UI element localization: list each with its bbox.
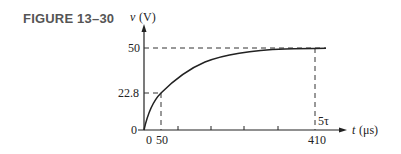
y-axis-unit: (V) <box>139 10 156 24</box>
x-axis-arrow-icon <box>339 128 347 133</box>
five-tau-label: 5τ <box>318 114 329 128</box>
y-tick-0: 0 <box>131 123 137 137</box>
x-tick-410: 410 <box>308 133 326 147</box>
charging-curve <box>144 48 326 130</box>
y-axis-arrow-icon <box>142 24 147 32</box>
y-tick-50: 50 <box>128 41 140 55</box>
y-tick-22.8: 22.8 <box>118 86 139 100</box>
guide-lines <box>144 48 326 130</box>
x-axis-unit: (μs) <box>359 123 378 137</box>
x-tick-0: 0 <box>146 133 152 147</box>
y-axis-variable: v <box>130 10 136 24</box>
x-tick-50: 50 <box>156 133 168 147</box>
charging-curve-chart: v (V) 50 22.8 0 0 50 410 5τ t (μs) <box>0 0 401 154</box>
x-axis-variable: t <box>352 123 356 137</box>
